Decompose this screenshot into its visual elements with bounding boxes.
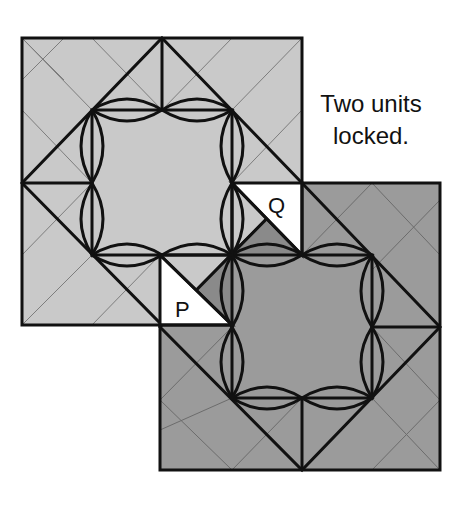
caption: Two units locked. <box>296 88 446 152</box>
locked-units-diagram: Q P <box>0 0 465 505</box>
label-p: P <box>175 297 190 322</box>
caption-line-1: Two units <box>296 88 446 120</box>
caption-line-2: locked. <box>296 120 446 152</box>
label-q: Q <box>268 193 285 218</box>
